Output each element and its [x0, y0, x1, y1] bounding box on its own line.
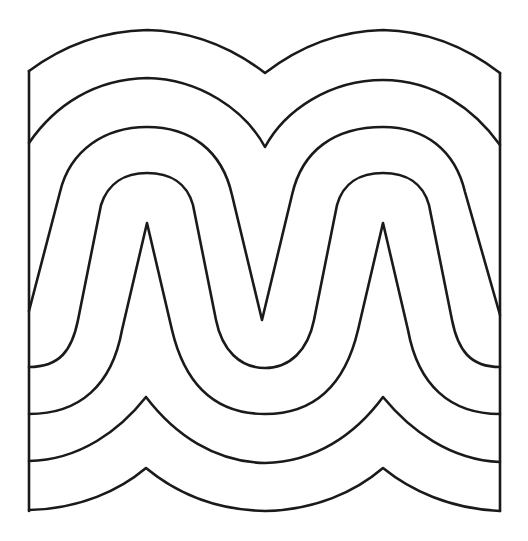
curve-4 [29, 173, 500, 368]
curve-7 [29, 468, 500, 511]
curve-1 [29, 30, 500, 73]
line-drawing [0, 0, 528, 541]
curve-2 [29, 78, 500, 147]
curve-3 [29, 127, 500, 320]
curve-6 [29, 397, 500, 463]
curve-5 [29, 223, 500, 414]
m-wave-figure [0, 0, 528, 541]
